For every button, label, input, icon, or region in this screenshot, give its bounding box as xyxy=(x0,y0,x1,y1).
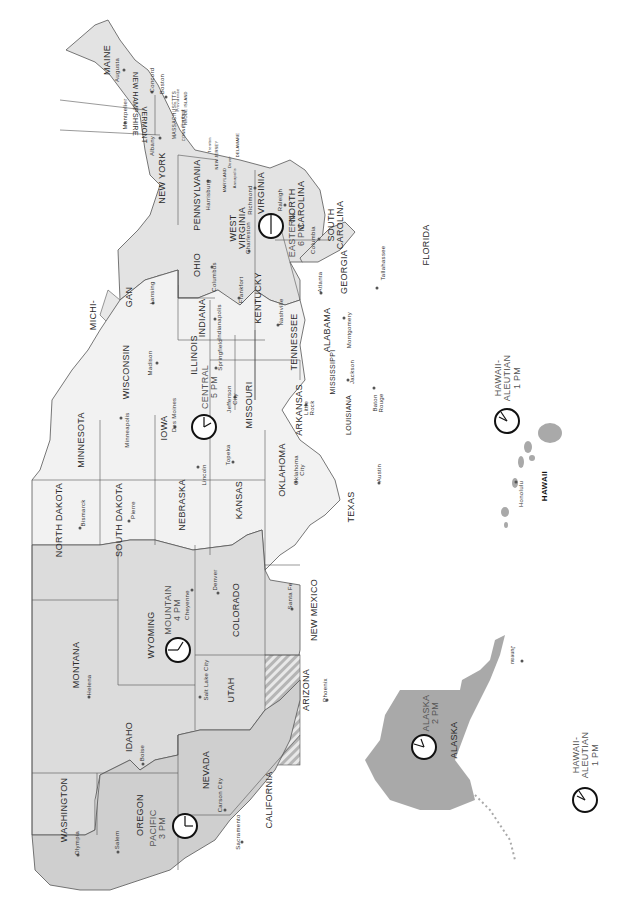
capital-montgomery: Montgomery xyxy=(346,312,352,348)
state-label-hawaii: HAWAII xyxy=(541,471,549,501)
state-label-michigan-1: MICHI- xyxy=(89,300,98,330)
capital-dot xyxy=(254,187,257,190)
zone-label-hawaii-aleutian: HAWAII-ALEUTIAN1 PM xyxy=(494,355,522,401)
state-label-louisiana: LOUISIANA xyxy=(345,395,352,435)
capital-bismarck: Bismarck xyxy=(80,499,86,526)
state-label-idaho: IDAHO xyxy=(125,722,134,752)
capital-honolulu: Honolulu xyxy=(518,481,524,507)
capital-oklahoma-city: OklahomaCity xyxy=(293,455,306,485)
state-label-kansas: KANSAS xyxy=(235,481,244,519)
capital-albany: Albany xyxy=(149,136,155,156)
map-shapes xyxy=(0,0,618,897)
capital-dover: Dover xyxy=(228,156,232,168)
state-label-illinois: ILLINOIS xyxy=(190,335,199,374)
capital-salt-lake-city: Salt Lake City xyxy=(203,659,209,700)
zone-label-mountain: MOUNTAIN4 PM xyxy=(164,585,183,635)
capital-pierre: Pierre xyxy=(130,501,136,519)
state-label-utah: UTAH xyxy=(227,677,236,702)
capital-santa-fe: Santa Fe xyxy=(287,583,293,610)
capital-dot xyxy=(224,809,227,812)
state-label-nebraska: NEBRASKA xyxy=(178,479,187,530)
capital-dot xyxy=(88,696,91,699)
capital-columbia: Columbia xyxy=(310,226,316,254)
capital-frankfort: Frankfort xyxy=(238,277,244,304)
state-label-tennessee: TENNESSEE xyxy=(290,313,299,370)
clock-mountain-icon xyxy=(164,636,192,664)
capital-jefferson-city: JeffersonCity xyxy=(226,385,239,412)
capital-dot xyxy=(128,520,131,523)
capital-dot xyxy=(117,851,120,854)
state-label-pennsylvania: PENNSYLVANIA xyxy=(193,159,202,230)
capital-topeka: Topeka xyxy=(225,444,231,465)
state-label-arizona: ARIZONA xyxy=(302,669,311,711)
zone-label-hawaii-aleutian-alt: HAWAII-ALEUTIAN1 PM xyxy=(572,732,600,778)
state-label-georgia: GEORGIA xyxy=(340,250,349,294)
us-time-zone-map: EASTERN6 PM CENTRAL5 PM MOUNTAIN4 PM PAC… xyxy=(0,0,618,897)
state-label-oklahoma: OKLAHOMA xyxy=(278,443,287,496)
clock-eastern-icon xyxy=(257,212,285,240)
state-label-indiana: INDIANA xyxy=(198,299,207,338)
capital-dot xyxy=(232,461,235,464)
capital-montpelier: Montpelier xyxy=(122,98,128,129)
clock-hawaii-aleutian-icon xyxy=(493,407,521,435)
state-label-new-hampshire: NEW HAMPSHIRE xyxy=(131,72,138,136)
capital-austin: Austin xyxy=(376,464,382,482)
state-label-alabama: ALABAMA xyxy=(323,308,332,353)
state-label-montana: MONTANA xyxy=(72,642,81,688)
capital-des-moines: Des Moines xyxy=(171,398,177,433)
state-label-vermont: VERMONT xyxy=(140,106,147,143)
state-label-virginia: VIRGINIA xyxy=(257,172,266,214)
capital-cheyenne: Cheyenne xyxy=(184,590,190,620)
capital-dot xyxy=(217,592,220,595)
capital-harrisburg: Harrisburg xyxy=(205,179,211,210)
clock-hawaii-aleutian-alt-icon xyxy=(571,786,599,814)
capital-dot xyxy=(123,69,126,72)
capital-dot xyxy=(156,362,159,365)
state-label-mississippi: MISSISSIPPI xyxy=(329,350,336,395)
capital-dot xyxy=(159,137,162,140)
state-label-maryland: MARYLAND xyxy=(223,168,227,193)
capital-annapolis: Annapolis xyxy=(233,168,237,188)
capital-hartford: Hartford xyxy=(181,110,185,127)
capital-dot xyxy=(142,763,145,766)
capital-dot xyxy=(120,417,123,420)
capital-dot xyxy=(284,204,287,207)
capital-carson-city: Carson City xyxy=(217,778,223,813)
capital-dot xyxy=(318,238,321,241)
capital-juneau: Juneau xyxy=(509,646,514,664)
clock-pacific-icon xyxy=(171,812,199,840)
capital-charleston: Charleston xyxy=(245,222,251,254)
capital-baton-rouge: BatonRouge xyxy=(372,393,385,412)
capital-springfield: Springfield xyxy=(217,339,223,371)
state-label-washington: WASHINGTON xyxy=(60,778,69,843)
state-label-iowa: IOWA xyxy=(160,416,169,441)
state-label-texas: TEXAS xyxy=(347,491,356,522)
capital-dot xyxy=(191,589,194,592)
aleutian-islands xyxy=(475,795,515,860)
state-label-colorado: COLORADO xyxy=(232,583,241,637)
capital-atlanta: Atlanta xyxy=(317,272,323,293)
capital-dot xyxy=(199,696,202,699)
capital-boston: Boston xyxy=(159,74,165,94)
zone-label-pacific: PACIFIC3 PM xyxy=(149,810,168,847)
capital-lansing: Lansing xyxy=(149,281,155,304)
capital-lincoln: Lincoln xyxy=(201,464,207,485)
capital-raleigh: Raleigh xyxy=(277,189,283,211)
capital-olympia: Olympia xyxy=(74,831,80,855)
state-label-wisconsin: WISCONSIN xyxy=(122,345,131,400)
state-label-kentucky: KENTUCKY xyxy=(254,272,263,323)
capital-dot xyxy=(373,387,376,390)
capital-columbus: Columbus xyxy=(211,262,217,291)
state-label-new-york: NEW YORK xyxy=(158,152,167,203)
state-label-south-carolina: SOUTHCAROLINA xyxy=(327,201,346,249)
capital-dot xyxy=(165,96,168,99)
state-label-oregon: OREGON xyxy=(136,794,145,836)
zone-label-alaska: ALASKA2 PM xyxy=(422,695,441,732)
capital-phoenix: Phoenix xyxy=(322,678,328,702)
capital-providence: Providence xyxy=(176,88,180,111)
capital-concord: Concord xyxy=(149,68,155,93)
hawaii-islands xyxy=(501,423,562,528)
clock-alaska-icon xyxy=(410,733,438,761)
capital-augusta: Augusta xyxy=(114,58,120,82)
capital-dot xyxy=(521,660,524,663)
